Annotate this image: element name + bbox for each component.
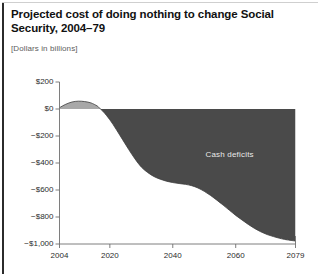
chart-figure: Projected cost of doing nothing to chang… (0, 0, 322, 276)
y-axis-tick-label: −$400 (8, 158, 54, 167)
y-axis-tick-label: −$600 (8, 185, 54, 194)
y-axis-tick-label: −$200 (8, 131, 54, 140)
cash-deficits-annotation: Cash deficits (205, 150, 253, 159)
y-axis-tick-label: $0 (8, 104, 54, 113)
y-axis-tick-label: $200 (8, 77, 54, 86)
x-axis-tick-label: 2060 (216, 251, 256, 260)
x-axis-tick-label: 2079 (276, 251, 316, 260)
x-axis-tick-label: 2040 (153, 251, 193, 260)
area-fill-group (60, 101, 296, 241)
y-axis-tick-label: −$800 (8, 212, 54, 221)
y-axis-tick-label: −$1,000 (8, 239, 54, 248)
x-axis-tick-label: 2020 (90, 251, 130, 260)
x-axis-tick-label: 2004 (40, 251, 80, 260)
deficit-area (60, 101, 296, 241)
